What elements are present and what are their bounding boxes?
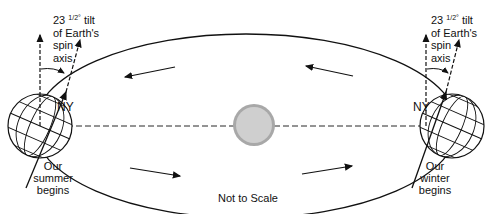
right-city-label: NY <box>413 101 430 113</box>
tilt-line-3: spin <box>431 39 477 52</box>
left-city-label: NY <box>57 101 74 113</box>
not-to-scale-caption: Not to Scale <box>208 192 288 204</box>
right-tilt-label: 23 1/2° tilt of Earth's spin axis <box>431 12 477 64</box>
tilt-line-4: axis <box>53 52 99 65</box>
season-line-2: winter <box>410 172 460 184</box>
arrow-top-right <box>306 66 353 76</box>
arrow-bottom-right <box>302 166 352 174</box>
season-line-3: begins <box>410 184 460 196</box>
season-line-2: summer <box>28 172 78 184</box>
tilt-number: 23 <box>53 14 65 26</box>
tilt-word: tilt <box>81 14 95 26</box>
tilt-number: 23 <box>431 14 443 26</box>
right-season-label: Our winter begins <box>410 160 460 196</box>
tilt-fraction: 1/2° <box>446 14 459 21</box>
tilt-fraction: 1/2° <box>68 14 81 21</box>
season-line-3: begins <box>28 184 78 196</box>
season-line-1: Our <box>28 160 78 172</box>
tilt-line-2: of Earth's <box>53 27 99 40</box>
sun-icon <box>233 104 275 146</box>
left-tilt-label: 23 1/2° tilt of Earth's spin axis <box>53 12 99 64</box>
season-line-1: Our <box>410 160 460 172</box>
left-season-label: Our summer begins <box>28 160 78 196</box>
arrow-top-left <box>125 67 175 77</box>
tilt-line-4: axis <box>431 52 477 65</box>
tilt-word: tilt <box>459 14 473 26</box>
right-globe-icon <box>410 84 493 168</box>
tilt-line-2: of Earth's <box>431 27 477 40</box>
arrow-bottom-left <box>130 168 180 176</box>
left-globe-icon <box>0 84 82 168</box>
tilt-line-3: spin <box>53 39 99 52</box>
